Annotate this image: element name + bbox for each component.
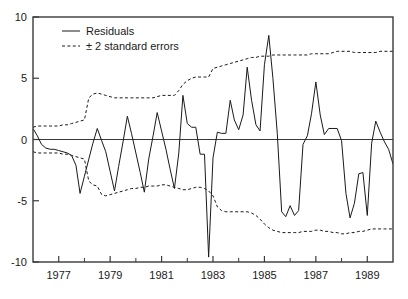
y-tick-label: -5 [17,195,27,207]
y-tick-label: 5 [21,72,27,84]
legend-label: Residuals [86,25,135,37]
x-tick-label: 1985 [252,269,276,281]
y-tick-label: 10 [15,11,27,23]
x-tick-label: 1989 [355,269,379,281]
legend-label: ± 2 standard errors [86,40,179,52]
y-tick-label: -10 [11,256,27,268]
x-tick-label: 1983 [201,269,225,281]
x-tick-label: 1977 [46,269,70,281]
x-tick-label: 1981 [149,269,173,281]
chart-canvas: 1050-5-10 1977197919811983198519871989 R… [0,0,408,299]
x-tick-label: 1987 [304,269,328,281]
y-tick-label: 0 [21,134,27,146]
x-tick-label: 1979 [98,269,122,281]
residual-plot-figure: 1050-5-10 1977197919811983198519871989 R… [0,0,408,299]
